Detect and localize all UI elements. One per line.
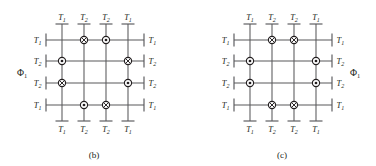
label-left-4: T1: [222, 101, 230, 111]
label-bottom-1: T1: [246, 125, 254, 135]
figure-root: T1T2T2T1T1T2T2T1T1T2T2T1T1T2T2T1Φ1(b) T1…: [0, 0, 376, 166]
label-left-1: T1: [222, 36, 230, 46]
label-top-1: T1: [246, 13, 254, 23]
label-left-1: T1: [34, 36, 42, 46]
circuit-lattice-c: T1T2T2T1T1T2T2T1T1T2T2T1T1T2T2T1Φ1(c): [188, 0, 376, 166]
label-bottom-3: T2: [290, 125, 298, 135]
label-left-3: T2: [222, 79, 230, 89]
label-top-4: T1: [124, 13, 132, 23]
label-top-3: T2: [102, 13, 110, 23]
junction-cross-icon: [58, 79, 65, 86]
label-right-3: T2: [337, 79, 345, 89]
label-left-2: T2: [34, 57, 42, 67]
circuit-lattice-b: T1T2T2T1T1T2T2T1T1T2T2T1T1T2T2T1Φ1(b): [0, 0, 188, 166]
flux-label: Φ1: [350, 67, 360, 79]
label-top-4: T1: [312, 13, 320, 23]
label-right-4: T1: [149, 101, 157, 111]
junction-cross-icon: [268, 36, 275, 43]
label-bottom-4: T1: [312, 125, 320, 135]
junction-cross-icon: [80, 36, 87, 43]
panel-c: T1T2T2T1T1T2T2T1T1T2T2T1T1T2T2T1Φ1(c): [188, 0, 376, 166]
junction-cross-icon: [268, 101, 275, 108]
label-bottom-4: T1: [124, 125, 132, 135]
junction-cross-icon: [124, 57, 131, 64]
label-bottom-1: T1: [58, 125, 66, 135]
panel-caption: (b): [89, 150, 100, 160]
flux-label: Φ1: [17, 67, 27, 79]
junction-cross-icon: [102, 101, 109, 108]
panel-b: T1T2T2T1T1T2T2T1T1T2T2T1T1T2T2T1Φ1(b): [0, 0, 188, 166]
junction-dot-icon: [246, 79, 253, 86]
panel-caption: (c): [277, 150, 287, 160]
label-right-2: T2: [149, 57, 157, 67]
label-top-2: T2: [80, 13, 88, 23]
label-right-3: T2: [149, 79, 157, 89]
junction-dot-icon: [312, 79, 319, 86]
label-right-4: T1: [337, 101, 345, 111]
label-left-2: T2: [222, 57, 230, 67]
label-bottom-2: T2: [80, 125, 88, 135]
label-top-1: T1: [58, 13, 66, 23]
label-top-2: T2: [268, 13, 276, 23]
label-top-3: T2: [290, 13, 298, 23]
label-right-1: T1: [337, 36, 345, 46]
junction-dot-icon: [58, 57, 65, 64]
junction-dot-icon: [102, 36, 109, 43]
junction-cross-icon: [290, 101, 297, 108]
label-right-2: T2: [337, 57, 345, 67]
label-right-1: T1: [149, 36, 157, 46]
junction-dot-icon: [246, 57, 253, 64]
label-bottom-2: T2: [268, 125, 276, 135]
label-bottom-3: T2: [102, 125, 110, 135]
junction-cross-icon: [290, 36, 297, 43]
label-left-4: T1: [34, 101, 42, 111]
junction-dot-icon: [124, 79, 131, 86]
junction-dot-icon: [80, 101, 87, 108]
junction-dot-icon: [312, 57, 319, 64]
label-left-3: T2: [34, 79, 42, 89]
